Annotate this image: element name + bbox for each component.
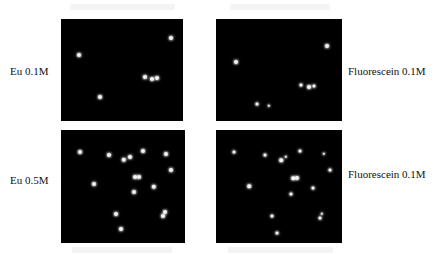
fluorescent-spot (264, 154, 267, 157)
fluorescent-spot (323, 153, 325, 155)
fluorescent-spot (169, 168, 173, 172)
fluorescent-spot (114, 212, 118, 216)
faded-caption-bottom-left (72, 247, 172, 253)
fluorescent-spot (77, 53, 81, 57)
fluorescent-spot (119, 227, 123, 231)
fluorescent-spot (78, 150, 82, 154)
fluorescent-spot (233, 151, 236, 154)
fluorescent-spot (290, 193, 293, 196)
fluorescent-spot (169, 36, 173, 40)
micrograph-panel-fluorescein-0.1-bottom (216, 130, 342, 243)
fluorescent-spot (299, 150, 302, 153)
fluorescent-spot (107, 153, 111, 157)
fluorescent-spot (307, 85, 311, 89)
fluorescent-spot (150, 77, 154, 81)
fluorescent-spot (295, 176, 299, 180)
panel-label-fluorescein-0.1-top: Fluorescein 0.1M (348, 65, 426, 77)
fluorescent-spot (128, 155, 132, 159)
panel-label-fluorescein-0.1-bottom: Fluorescein 0.1M (348, 168, 426, 180)
fluorescent-spot (152, 185, 156, 189)
fluorescent-spot (256, 103, 259, 106)
fluorescent-spot (234, 60, 238, 64)
fluorescent-spot (321, 213, 323, 215)
fluorescent-spot (325, 44, 329, 48)
panel-label-eu-0.1: Eu 0.1M (10, 65, 49, 77)
fluorescent-spot (98, 95, 102, 99)
fluorescent-spot (122, 158, 126, 162)
faded-caption-top-left (70, 4, 175, 10)
fluorescent-spot (300, 84, 303, 87)
fluorescent-spot (285, 156, 287, 158)
fluorescent-spot (268, 105, 270, 107)
fluorescent-spot (143, 75, 147, 79)
fluorescent-spot (164, 152, 168, 156)
fluorescent-spot (312, 187, 315, 190)
fluorescent-spot (132, 190, 136, 194)
fluorescent-spot (319, 217, 322, 220)
fluorescent-spot (329, 169, 332, 172)
micrograph-panel-eu-0.5 (61, 130, 185, 243)
micrograph-panel-fluorescein-0.1-top (216, 19, 342, 121)
faded-caption-bottom-right (228, 247, 333, 253)
micrograph-panel-eu-0.1 (61, 19, 183, 121)
fluorescent-spot (141, 149, 145, 153)
fluorescent-spot (313, 85, 316, 88)
fluorescent-spot (279, 158, 283, 162)
fluorescent-spot (247, 184, 251, 188)
fluorescent-spot (271, 215, 274, 218)
fluorescent-spot (155, 76, 159, 80)
fluorescent-spot (161, 214, 165, 218)
fluorescent-spot (276, 232, 279, 235)
faded-caption-top-right (230, 4, 330, 10)
fluorescent-spot (137, 175, 141, 179)
panel-label-eu-0.5: Eu 0.5M (10, 174, 49, 186)
fluorescent-spot (92, 182, 96, 186)
